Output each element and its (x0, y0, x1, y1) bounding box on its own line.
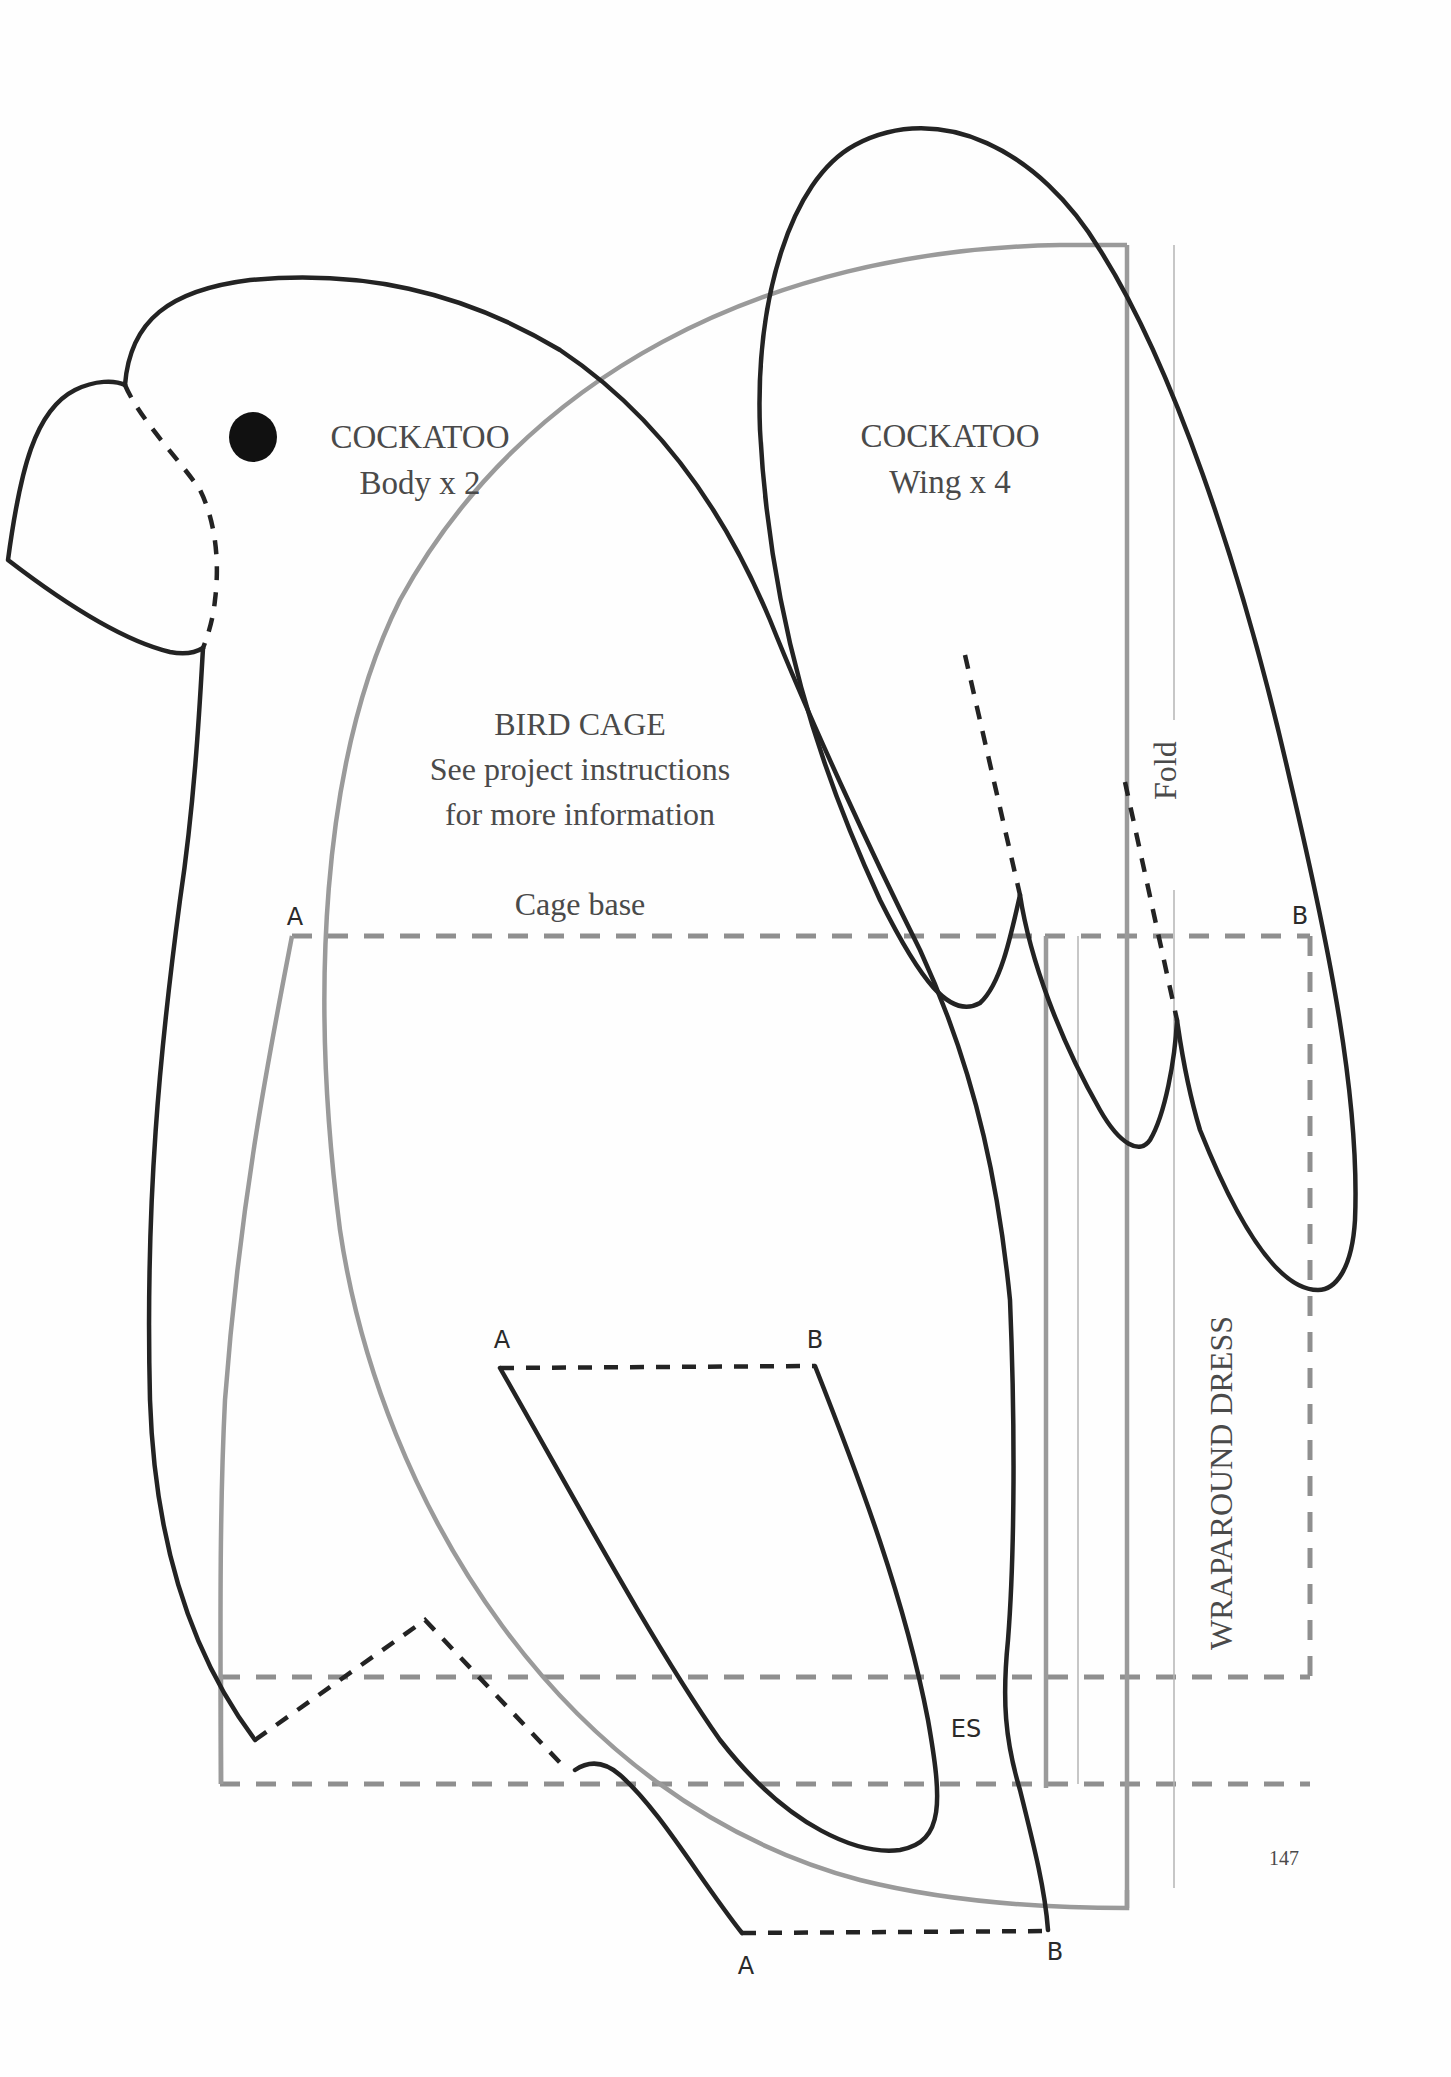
tail-lower-contour (575, 1764, 742, 1933)
es-label: ES (951, 1715, 981, 1743)
leg-top-dashed (500, 1366, 815, 1368)
leg-piece (500, 1366, 937, 1851)
beak-seam-dashed (125, 385, 217, 648)
body-front-contour (149, 648, 255, 1740)
wing-subtitle: Wing x 4 (889, 464, 1011, 500)
pattern-canvas: COCKATOO Body x 2 COCKATOO Wing x 4 BIRD… (0, 0, 1451, 2077)
leg-outline (500, 1366, 937, 1851)
cockatoo-body-piece (8, 278, 1048, 1933)
cage-base-left-edge (220, 936, 292, 1784)
cage-base-label: Cage base (515, 886, 646, 922)
foot-point-a: A (738, 1952, 755, 1980)
beak-outline (8, 382, 203, 654)
body-back-contour (125, 278, 1048, 1930)
wraparound-dress-label: WRAPAROUND DRESS (1203, 1316, 1239, 1650)
cage-instructions-line1: See project instructions (430, 751, 730, 787)
fold-label: Fold (1147, 741, 1183, 800)
cage-point-a: A (287, 903, 304, 931)
wing-title: COCKATOO (860, 418, 1039, 454)
wing-outline-top (760, 128, 1356, 1290)
pattern-page: COCKATOO Body x 2 COCKATOO Wing x 4 BIRD… (0, 0, 1451, 2077)
cage-title: BIRD CAGE (494, 706, 666, 742)
body-subtitle: Body x 2 (359, 465, 480, 501)
wing-feather-middle (1020, 895, 1177, 1147)
leg-point-a: A (494, 1326, 511, 1354)
body-title: COCKATOO (330, 419, 509, 455)
leg-point-b: B (807, 1326, 823, 1354)
eye-icon (229, 412, 277, 462)
foot-base-dashed (742, 1931, 1048, 1933)
wing-seam-dashed-1 (965, 655, 1020, 895)
wing-seam-dashed-2 (1125, 782, 1177, 1020)
tail-dart-dashed (255, 1620, 565, 1768)
foot-point-b: B (1047, 1938, 1063, 1966)
page-number: 147 (1269, 1847, 1299, 1869)
cockatoo-wing-piece (760, 128, 1356, 1290)
cage-instructions-line2: for more information (445, 796, 715, 832)
cage-point-b: B (1292, 902, 1308, 930)
